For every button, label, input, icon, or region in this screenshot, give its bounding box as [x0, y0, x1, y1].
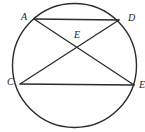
vertex-label-e-intersection: E — [74, 30, 80, 40]
vertex-label-a: A — [21, 12, 27, 22]
circle-outline — [13, 4, 137, 128]
vertex-label-c: C — [7, 77, 14, 87]
geometry-figure: A D C E E — [0, 0, 145, 132]
vertex-label-e-right: E — [139, 80, 145, 90]
vertex-label-d: D — [128, 13, 135, 23]
chord-c-e — [20, 84, 134, 85]
chord-a-e — [34, 19, 134, 85]
chord-a-d — [34, 19, 119, 20]
chord-c-d — [20, 20, 119, 84]
